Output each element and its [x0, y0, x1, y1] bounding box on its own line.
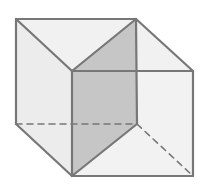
- cube-diagram: [0, 0, 202, 192]
